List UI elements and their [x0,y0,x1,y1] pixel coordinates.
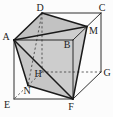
vertex-label-G: G [103,67,110,78]
geometry-figure: ABCDEFGHMN [0,0,113,117]
vertex-label-M: M [89,25,98,36]
vertex-label-A: A [2,31,10,42]
geometry-diagram-canvas: ABCDEFGHMN [0,0,113,117]
vertex-label-B: B [64,39,71,50]
vertex-label-D: D [36,2,43,13]
vertex-label-N: N [23,85,30,96]
vertex-label-H: H [34,68,41,79]
vertex-label-E: E [4,99,10,110]
vertex-label-F: F [68,101,74,112]
vertex-label-C: C [99,2,106,13]
